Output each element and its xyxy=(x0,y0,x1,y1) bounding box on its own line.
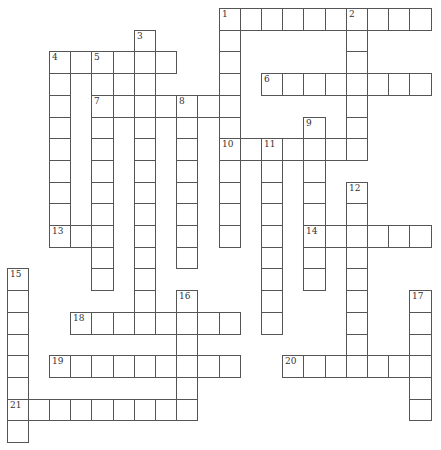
crossword-cell[interactable]: 13 xyxy=(49,225,71,248)
crossword-cell[interactable] xyxy=(346,268,368,291)
crossword-cell[interactable] xyxy=(197,355,220,378)
crossword-cell[interactable] xyxy=(346,312,368,335)
crossword-cell[interactable] xyxy=(91,268,114,291)
crossword-cell[interactable] xyxy=(176,399,198,421)
crossword-cell[interactable] xyxy=(91,399,114,421)
crossword-cell[interactable] xyxy=(388,8,410,31)
crossword-cell[interactable] xyxy=(346,247,368,269)
crossword-cell[interactable] xyxy=(346,95,368,118)
crossword-cell[interactable] xyxy=(113,95,135,118)
crossword-cell[interactable] xyxy=(70,225,92,248)
crossword-cell[interactable] xyxy=(7,290,29,313)
crossword-cell[interactable] xyxy=(91,117,114,139)
crossword-cell[interactable] xyxy=(346,117,368,139)
crossword-cell[interactable] xyxy=(303,138,326,161)
crossword-cell[interactable] xyxy=(197,312,220,335)
crossword-cell[interactable] xyxy=(176,312,198,335)
crossword-cell[interactable] xyxy=(409,334,432,356)
crossword-cell[interactable] xyxy=(134,95,156,118)
crossword-cell[interactable]: 19 xyxy=(49,355,71,378)
crossword-cell[interactable] xyxy=(134,247,156,269)
crossword-cell[interactable]: 10 xyxy=(219,138,241,161)
crossword-cell[interactable] xyxy=(176,247,198,269)
crossword-cell[interactable] xyxy=(219,30,241,52)
crossword-cell[interactable] xyxy=(325,73,347,96)
crossword-cell[interactable] xyxy=(261,268,283,291)
crossword-cell[interactable] xyxy=(134,312,156,335)
crossword-cell[interactable] xyxy=(176,334,198,356)
crossword-cell[interactable]: 21 xyxy=(7,399,29,421)
crossword-cell[interactable] xyxy=(197,95,220,118)
crossword-cell[interactable] xyxy=(49,160,71,183)
crossword-cell[interactable] xyxy=(113,399,135,421)
crossword-cell[interactable] xyxy=(388,355,410,378)
crossword-cell[interactable] xyxy=(28,399,50,421)
crossword-cell[interactable] xyxy=(346,51,368,74)
crossword-cell[interactable] xyxy=(70,355,92,378)
crossword-cell[interactable]: 15 xyxy=(7,268,29,291)
crossword-cell[interactable] xyxy=(303,160,326,183)
crossword-cell[interactable] xyxy=(7,355,29,378)
crossword-cell[interactable] xyxy=(367,225,389,248)
crossword-cell[interactable] xyxy=(49,95,71,118)
crossword-cell[interactable] xyxy=(219,117,241,139)
crossword-cell[interactable] xyxy=(303,203,326,226)
crossword-cell[interactable] xyxy=(176,377,198,400)
crossword-cell[interactable] xyxy=(219,203,241,226)
crossword-cell[interactable] xyxy=(176,355,198,378)
crossword-cell[interactable] xyxy=(282,8,304,31)
crossword-cell[interactable] xyxy=(7,377,29,400)
crossword-cell[interactable] xyxy=(367,355,389,378)
crossword-cell[interactable] xyxy=(346,73,368,96)
crossword-cell[interactable] xyxy=(155,312,177,335)
crossword-cell[interactable] xyxy=(219,225,241,248)
crossword-cell[interactable]: 4 xyxy=(49,51,71,74)
crossword-cell[interactable] xyxy=(325,355,347,378)
crossword-cell[interactable] xyxy=(261,312,283,335)
crossword-cell[interactable] xyxy=(346,138,368,161)
crossword-cell[interactable] xyxy=(134,73,156,96)
crossword-cell[interactable] xyxy=(282,138,304,161)
crossword-cell[interactable] xyxy=(113,355,135,378)
crossword-cell[interactable]: 18 xyxy=(70,312,92,335)
crossword-cell[interactable] xyxy=(261,160,283,183)
crossword-cell[interactable] xyxy=(134,268,156,291)
crossword-cell[interactable] xyxy=(134,160,156,183)
crossword-cell[interactable] xyxy=(325,8,347,31)
crossword-cell[interactable] xyxy=(7,334,29,356)
crossword-cell[interactable]: 12 xyxy=(346,182,368,204)
crossword-cell[interactable]: 16 xyxy=(176,290,198,313)
crossword-cell[interactable] xyxy=(49,203,71,226)
crossword-cell[interactable] xyxy=(70,51,92,74)
crossword-cell[interactable]: 17 xyxy=(409,290,432,313)
crossword-cell[interactable] xyxy=(134,290,156,313)
crossword-cell[interactable] xyxy=(261,8,283,31)
crossword-cell[interactable] xyxy=(303,355,326,378)
crossword-cell[interactable]: 8 xyxy=(176,95,198,118)
crossword-cell[interactable] xyxy=(7,420,29,443)
crossword-cell[interactable] xyxy=(240,8,262,31)
crossword-cell[interactable]: 11 xyxy=(261,138,283,161)
crossword-cell[interactable] xyxy=(409,399,432,421)
crossword-cell[interactable] xyxy=(134,182,156,204)
crossword-cell[interactable] xyxy=(346,290,368,313)
crossword-cell[interactable] xyxy=(91,73,114,96)
crossword-cell[interactable] xyxy=(303,268,326,291)
crossword-cell[interactable] xyxy=(134,399,156,421)
crossword-cell[interactable] xyxy=(388,73,410,96)
crossword-cell[interactable] xyxy=(176,160,198,183)
crossword-cell[interactable]: 1 xyxy=(219,8,241,31)
crossword-cell[interactable] xyxy=(409,377,432,400)
crossword-cell[interactable] xyxy=(155,51,177,74)
crossword-cell[interactable] xyxy=(113,312,135,335)
crossword-cell[interactable] xyxy=(219,312,241,335)
crossword-cell[interactable] xyxy=(346,225,368,248)
crossword-cell[interactable] xyxy=(134,355,156,378)
crossword-cell[interactable] xyxy=(409,73,432,96)
crossword-cell[interactable] xyxy=(303,73,326,96)
crossword-cell[interactable] xyxy=(91,225,114,248)
crossword-cell[interactable] xyxy=(176,225,198,248)
crossword-cell[interactable] xyxy=(409,312,432,335)
crossword-cell[interactable]: 20 xyxy=(282,355,304,378)
crossword-cell[interactable]: 7 xyxy=(91,95,114,118)
